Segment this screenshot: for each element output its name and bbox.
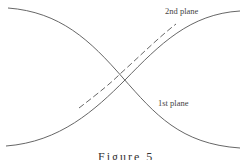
second-plane-label: 2nd plane bbox=[165, 7, 198, 16]
figure-caption: Figure 5 bbox=[98, 151, 154, 160]
curves-drawing bbox=[0, 0, 252, 160]
second-plane-dashed-path bbox=[79, 24, 176, 108]
first-plane-curve bbox=[8, 8, 240, 148]
diagram-figure: 2nd plane 1st plane Figure 5 bbox=[0, 0, 252, 160]
first-plane-label: 1st plane bbox=[158, 99, 188, 108]
